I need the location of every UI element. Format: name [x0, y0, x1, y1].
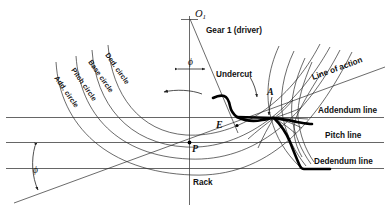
point-a-label: A	[266, 86, 274, 97]
point-marker-p	[188, 141, 192, 145]
dedendum-line-label: Dedendum line	[314, 157, 373, 166]
point-e-label: E	[215, 119, 223, 130]
point-p-label: P	[192, 143, 199, 154]
pressure-angle-label-bottom: ϕ	[33, 165, 38, 175]
point-marker-e	[235, 124, 238, 127]
gear-driver-label: Gear 1 (driver)	[206, 26, 262, 35]
addendum-line-label: Addendum line	[318, 106, 378, 115]
rack-label: Rack	[193, 178, 213, 187]
fan-ray-6	[258, 118, 274, 148]
undercut-tooth-root-segment	[237, 117, 274, 118]
pitch-line-label: Pitch line	[325, 131, 362, 140]
undercut-arrow-icon	[250, 77, 257, 97]
fan-ray-5	[274, 100, 293, 118]
pressure-angle-label-top: ϕ	[188, 57, 193, 67]
center-point-label: O1	[195, 8, 206, 21]
rotation-arrow-icon	[164, 90, 202, 94]
gear-rack-undercut-diagram: O1 Gear 1 (driver) ϕ ϕ Undercut A E P Ra…	[0, 0, 390, 210]
diagram-canvas: O1 Gear 1 (driver) ϕ ϕ Undercut A E P Ra…	[0, 0, 390, 210]
undercut-label: Undercut	[216, 70, 252, 79]
